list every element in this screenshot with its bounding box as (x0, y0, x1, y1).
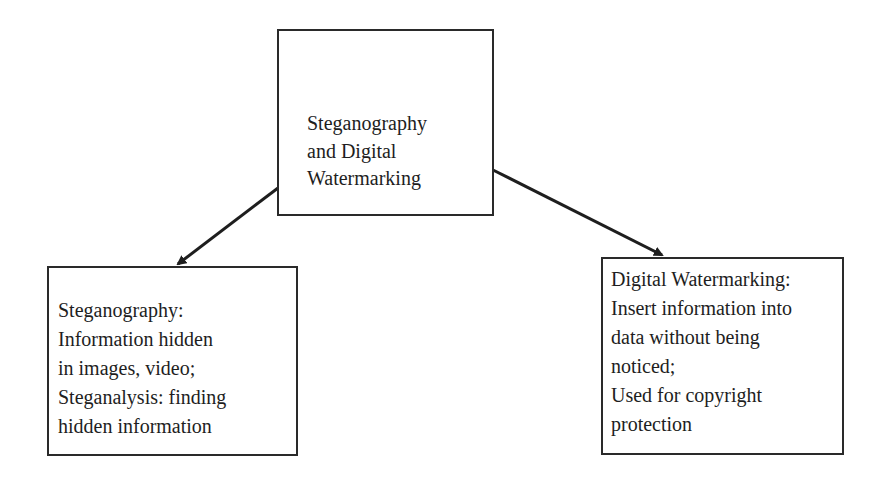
root-line: and Digital (307, 138, 427, 166)
digital-watermarking-node-box: Digital Watermarking: Insert information… (601, 257, 844, 455)
root-node-box: Steganography and Digital Watermarking (277, 29, 494, 216)
node-line: data without being (611, 323, 792, 352)
node-line: Insert information into (611, 294, 792, 323)
node-line: Used for copyright (611, 381, 792, 410)
steganography-node-box: Steganography: Information hidden in ima… (47, 266, 298, 456)
node-line: in images, video; (58, 354, 226, 383)
node-line: Steganography: (58, 296, 226, 325)
arrow-to-steganography (178, 188, 278, 264)
digital-watermarking-node-text: Digital Watermarking: Insert information… (611, 265, 792, 439)
root-node-text: Steganography and Digital Watermarking (307, 110, 427, 193)
node-line: Steganalysis: finding (58, 383, 226, 412)
steganography-node-text: Steganography: Information hidden in ima… (58, 296, 226, 441)
node-line: Information hidden (58, 325, 226, 354)
root-line: Watermarking (307, 165, 427, 193)
node-line: Digital Watermarking: (611, 265, 792, 294)
arrow-to-digital-watermarking (493, 170, 662, 255)
node-line: protection (611, 410, 792, 439)
node-line: hidden information (58, 412, 226, 441)
node-line: noticed; (611, 352, 792, 381)
root-line: Steganography (307, 110, 427, 138)
